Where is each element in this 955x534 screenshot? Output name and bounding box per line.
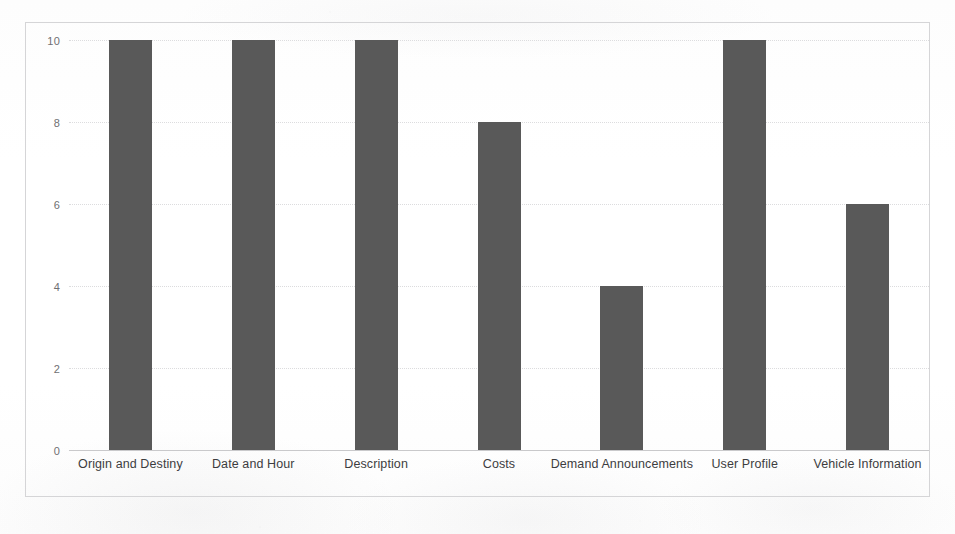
chart-frame: 0246810 Origin and DestinyDate and HourD…	[25, 22, 930, 497]
bar	[723, 40, 766, 450]
y-axis-tick-label-4: 4	[54, 281, 60, 293]
y-axis-tick-label-10: 10	[47, 35, 60, 47]
plot-area: 0246810	[69, 40, 929, 450]
y-axis-tick-label-6: 6	[54, 199, 60, 211]
bar	[109, 40, 152, 450]
gridline-10: 10	[69, 40, 929, 41]
bar	[846, 204, 889, 450]
y-axis-tick-label-2: 2	[54, 363, 60, 375]
x-axis-category-label: Vehicle Information	[793, 456, 943, 473]
y-axis-tick-label-8: 8	[54, 117, 60, 129]
x-axis-label-band: Origin and DestinyDate and HourDescripti…	[69, 450, 929, 497]
bar	[355, 40, 398, 450]
bar	[232, 40, 275, 450]
bar	[600, 286, 643, 450]
bar	[478, 122, 521, 450]
page-background: 0246810 Origin and DestinyDate and HourD…	[0, 0, 955, 534]
